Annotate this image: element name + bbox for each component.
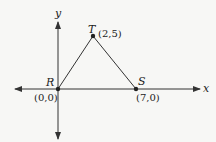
point-S-label: S	[138, 75, 146, 88]
segment-TS	[93, 36, 136, 89]
point-R	[56, 87, 60, 91]
y-axis-label: y	[54, 7, 62, 20]
point-T-label: T	[88, 23, 97, 36]
segment-RT	[58, 36, 93, 89]
coordinate-diagram: y x T (2,5) R (0,0) S (7,0)	[0, 0, 216, 142]
point-R-coords: (0,0)	[34, 92, 58, 103]
x-axis-label: x	[203, 82, 210, 95]
point-S-coords: (7,0)	[136, 92, 160, 103]
point-T-coords: (2,5)	[98, 28, 122, 39]
point-R-label: R	[45, 76, 54, 89]
